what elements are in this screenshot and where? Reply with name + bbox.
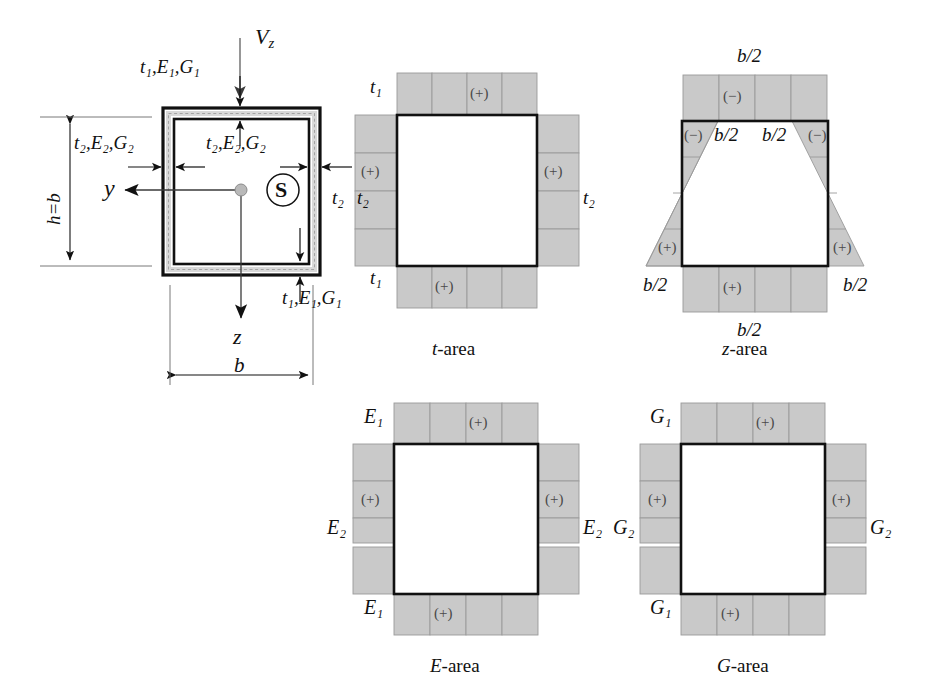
centroid-dot — [235, 184, 247, 196]
e-area-caption: E-area — [430, 656, 480, 675]
t-area-caption: t-area — [432, 339, 475, 358]
t-area-label-side-left: t₂ — [332, 188, 344, 207]
g-area-sign-top: (+) — [756, 415, 774, 430]
g-area-sign-right: (+) — [832, 492, 850, 507]
z-area-sign-lower-right: (+) — [833, 240, 851, 255]
g-area-label-top-left: G₁ — [650, 406, 671, 426]
e-area-top-band — [394, 403, 538, 444]
label-axis-y: y — [104, 176, 115, 200]
label-shear-center: S — [275, 179, 287, 201]
label-load-vz: Vz — [255, 26, 274, 51]
g-area-section-outline — [681, 444, 825, 594]
figure-root: Vz t₁,E₁,G₁ t₂,E₂,G₂ t₂,E₂,G₂ t₂ t₁,E₁,G… — [0, 0, 930, 692]
z-area-sign-top: (−) — [723, 89, 741, 104]
e-area-sign-left: (+) — [361, 492, 379, 507]
panel-z-area-graphics — [646, 75, 864, 312]
e-area-label-side-right: E₂ — [583, 517, 602, 537]
t-area-label-top-left: t₁ — [370, 77, 382, 96]
z-area-label-top-inner-right: b/2 — [762, 125, 786, 144]
z-area-sign-lower-left: (+) — [658, 240, 676, 255]
label-web-right: t₂,E₂,G₂ — [206, 133, 266, 152]
label-axis-z: z — [233, 326, 242, 348]
z-area-caption: z-area — [722, 339, 767, 358]
t-area-sign-top: (+) — [470, 86, 488, 101]
e-area-sign-bottom: (+) — [434, 606, 452, 621]
g-area-left-band — [640, 444, 681, 594]
t-area-caption-rest: -area — [437, 338, 475, 359]
z-area-label-top-inner-left: b/2 — [714, 125, 738, 144]
t-area-top-band — [397, 73, 537, 115]
label-height-dim: h=b — [44, 193, 63, 225]
z-area-label-bottom-outer: b/2 — [737, 320, 761, 339]
e-area-caption-symbol: E — [430, 655, 442, 676]
label-thickness-right: t₂ — [357, 188, 369, 207]
g-area-label-bottom-left: G₁ — [650, 597, 671, 617]
z-area-label-bottom-left: b/2 — [643, 275, 667, 294]
z-area-label-bottom-right: b/2 — [843, 275, 867, 294]
panel-e-area-graphics — [353, 403, 579, 635]
z-area-top-band — [683, 75, 827, 121]
t-area-bottom-band — [397, 266, 537, 308]
g-area-label-side-right: G₂ — [870, 517, 891, 537]
e-area-label-bottom-left: E₁ — [364, 597, 383, 617]
t-area-sign-right: (+) — [544, 164, 562, 179]
e-area-bottom-band — [394, 594, 538, 635]
panel-g-area-graphics — [640, 403, 866, 635]
z-area-caption-rest: -area — [729, 338, 767, 359]
z-area-bottom-band — [683, 266, 827, 312]
label-web-left: t₂,E₂,G₂ — [74, 133, 134, 152]
e-area-label-side-left: E₂ — [327, 517, 346, 537]
panel-t-area-graphics — [355, 73, 579, 308]
label-flange-top: t₁,E₁,G₁ — [140, 57, 200, 76]
e-area-section-outline — [394, 444, 538, 594]
e-area-caption-rest: -area — [442, 655, 480, 676]
z-area-sign-upper-left: (−) — [684, 128, 702, 143]
z-area-sign-upper-right: (−) — [808, 128, 826, 143]
t-area-section-outline — [397, 115, 537, 266]
g-area-bottom-band — [681, 594, 825, 635]
e-area-right-band — [538, 444, 579, 594]
main-cross-section — [40, 38, 352, 385]
t-area-label-bottom-left: t₁ — [370, 268, 382, 287]
e-area-sign-top: (+) — [469, 415, 487, 430]
t-area-right-band — [537, 115, 579, 266]
e-area-left-band — [353, 444, 394, 594]
e-area-label-top-left: E₁ — [364, 406, 383, 426]
label-width-dim: b — [234, 355, 245, 376]
t-area-sign-left: (+) — [361, 164, 379, 179]
g-area-label-side-left: G₂ — [613, 517, 634, 537]
e-area-sign-right: (+) — [545, 492, 563, 507]
t-area-label-side-right: t₂ — [583, 188, 595, 207]
g-area-sign-left: (+) — [648, 492, 666, 507]
g-area-caption-symbol: G — [717, 655, 731, 676]
z-area-label-top-outer: b/2 — [737, 46, 761, 65]
g-area-caption: G-area — [717, 656, 769, 675]
label-flange-bottom: t₁,E₁,G₁ — [282, 288, 342, 307]
g-area-right-band — [825, 444, 866, 594]
t-area-sign-bottom: (+) — [435, 279, 453, 294]
g-area-top-band — [681, 403, 825, 444]
z-area-sign-bottom: (+) — [723, 280, 741, 295]
g-area-sign-bottom: (+) — [721, 606, 739, 621]
g-area-caption-rest: -area — [731, 655, 769, 676]
